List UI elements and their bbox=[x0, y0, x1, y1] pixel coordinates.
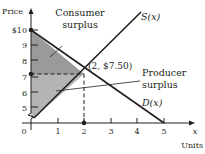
equilibrium-price-point bbox=[29, 72, 34, 77]
y-tick-6: 6 bbox=[22, 89, 27, 98]
x-tick-2: 2 bbox=[81, 127, 86, 136]
y-tick-9: 9 bbox=[22, 41, 27, 50]
y-tick-7: 7 bbox=[22, 73, 27, 82]
x-tick-1: 1 bbox=[55, 127, 60, 136]
equilibrium-quantity-point bbox=[82, 121, 87, 126]
x-tick-4: 4 bbox=[134, 127, 139, 136]
x-tick-0: 0 bbox=[21, 127, 26, 136]
producer-surplus-region bbox=[31, 74, 84, 118]
equilibrium-label: (2, $7.50) bbox=[88, 61, 132, 71]
surplus-chart: Price $10 9 8 7 6 5 0 1 2 3 4 5 x Units … bbox=[0, 0, 205, 154]
consumer-surplus-region bbox=[31, 30, 84, 74]
x-ticks bbox=[58, 118, 164, 123]
producer-surplus-label-line2: surplus bbox=[142, 79, 178, 90]
x-axis-arrow-icon bbox=[189, 121, 195, 126]
y-tick-8: 8 bbox=[22, 57, 27, 66]
supply-curve-label: S(x) bbox=[141, 11, 161, 22]
producer-surplus-label-line1: Producer bbox=[142, 67, 187, 78]
x-axis-units-label: Units bbox=[181, 141, 203, 150]
x-tick-5: 5 bbox=[161, 127, 166, 136]
demand-curve-label: D(x) bbox=[141, 97, 163, 108]
price-intercept-point bbox=[29, 28, 34, 33]
x-axis-variable: x bbox=[193, 127, 198, 136]
y-axis-label: Price bbox=[2, 7, 23, 16]
consumer-surplus-label-line2: surplus bbox=[62, 19, 98, 30]
y-tick-10: $10 bbox=[12, 26, 27, 35]
y-axis-arrow-icon bbox=[29, 8, 34, 14]
consumer-surplus-label-line1: Consumer bbox=[55, 7, 105, 18]
x-tick-3: 3 bbox=[108, 127, 113, 136]
y-tick-5: 5 bbox=[22, 104, 27, 113]
